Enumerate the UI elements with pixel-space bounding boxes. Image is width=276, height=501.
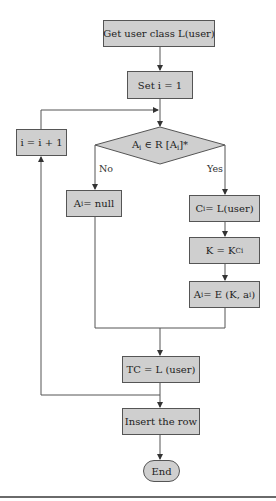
insert-row-box: Insert the row (122, 408, 200, 435)
bottom-divider (0, 496, 276, 498)
increment-i-box: i = i + 1 (16, 129, 67, 156)
set-i-box: Set i = 1 (127, 71, 193, 99)
ci-assign-box: Ci = L(user) (189, 195, 260, 222)
k-assign-box: K = KCi (189, 237, 260, 264)
get-user-class-box: Get user class L(user) (103, 20, 215, 47)
yes-branch-label: Yes (207, 163, 223, 174)
tc-assign-box: TC = L (user) (122, 356, 200, 383)
no-branch-label: No (99, 163, 113, 174)
decision-label: Ai ∈ R [Ai]* (110, 139, 210, 152)
encrypt-box: Ai = E (K, ai) (189, 281, 260, 308)
ai-null-box: Ai = null (66, 190, 122, 217)
end-terminal: End (143, 460, 180, 482)
